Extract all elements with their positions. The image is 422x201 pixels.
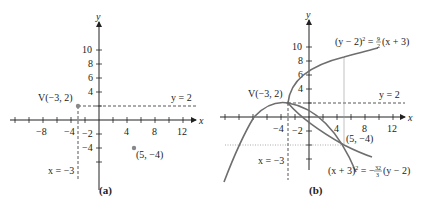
x-tick-label: 12 — [177, 126, 187, 137]
x-tick-label: −4 — [64, 126, 75, 137]
panel-a: y x −8 −4 4 8 12 10 8 6 4 −2 −4 V(−3, 2)… — [10, 11, 204, 197]
panel-caption: (b) — [309, 184, 323, 197]
x-tick-label: 4 — [334, 123, 339, 134]
equation-1: (y − 2)2 = 9 2 (x + 3) — [335, 36, 409, 49]
y-axis-label: y — [95, 11, 101, 22]
figure-canvas: y x −8 −4 4 8 12 10 8 6 4 −2 −4 V(−3, 2)… — [0, 0, 422, 201]
vertex-label: V(−3, 2) — [38, 92, 73, 104]
x-tick-label: −4 — [273, 123, 284, 134]
svg-text:(x + 3): (x + 3) — [382, 36, 409, 48]
vertex-label: V(−3, 2) — [248, 88, 283, 100]
x-tick-label: 4 — [124, 126, 129, 137]
panel-b: y x −4 4 8 12 10 8 6 4 −2 V(−3, 2) y = 2… — [220, 9, 413, 197]
x-tick-label: 12 — [387, 123, 397, 134]
svg-text:2: 2 — [377, 43, 380, 49]
panel-caption: (a) — [99, 184, 112, 197]
y-tick-label: 10 — [82, 44, 92, 55]
vertex-point — [76, 104, 80, 108]
axis-line-label: x = −3 — [48, 165, 74, 176]
y-tick-label: −2 — [292, 125, 303, 136]
equation-2: (x + 3)2 = − 32 3 (y − 2) — [328, 165, 410, 178]
x-tick-label: −8 — [36, 126, 47, 137]
y-tick-label: −2 — [82, 128, 93, 139]
y-tick-label: 4 — [88, 86, 93, 97]
svg-text:(x + 3)2 = −: (x + 3)2 = − — [328, 165, 375, 177]
y-axis-label: y — [305, 9, 311, 20]
point-label: (5, −4) — [346, 133, 373, 145]
y-tick-label: −4 — [82, 142, 93, 153]
vertex-point — [287, 102, 290, 105]
y-tick-label: 8 — [298, 55, 303, 66]
svg-text:9: 9 — [377, 36, 380, 42]
y-tick-label: 6 — [88, 72, 93, 83]
svg-text:3: 3 — [376, 172, 379, 178]
x-tick-label: 8 — [152, 126, 157, 137]
directrix-label: y = 2 — [379, 89, 400, 100]
y-tick-label: 10 — [292, 41, 302, 52]
svg-text:32: 32 — [375, 165, 381, 171]
y-tick-label: 8 — [88, 58, 93, 69]
svg-text:(y − 2)2 =: (y − 2)2 = — [335, 36, 374, 48]
point-label: (5, −4) — [136, 149, 163, 161]
x-axis-label: x — [198, 115, 204, 126]
x-axis-label: x — [407, 112, 413, 123]
y-tick-label: 4 — [298, 83, 303, 94]
svg-text:(y − 2): (y − 2) — [383, 165, 410, 177]
axis-line-label: x = −3 — [258, 155, 284, 166]
directrix-label: y = 2 — [171, 92, 192, 103]
